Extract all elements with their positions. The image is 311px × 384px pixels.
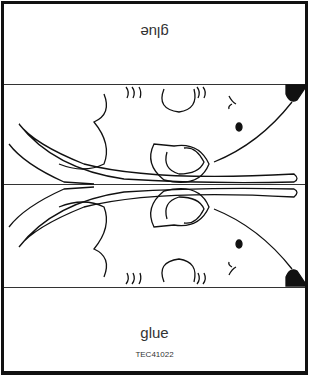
mouse-top-mirrored — [9, 85, 305, 184]
worksheet-frame: glue — [1, 1, 308, 375]
product-code: TEC41022 — [4, 350, 305, 359]
glue-label-top: glue — [4, 24, 305, 41]
mouse-illustration — [4, 84, 305, 287]
mouse-bottom — [9, 187, 305, 286]
glue-tab-bottom: glue TEC41022 — [4, 287, 305, 371]
glue-label-bottom: glue — [4, 324, 305, 341]
glue-tab-top: glue — [4, 4, 305, 84]
